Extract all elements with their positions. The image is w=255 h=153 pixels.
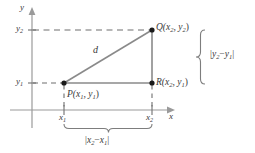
tick-label-y1-sub: 1	[20, 81, 23, 87]
y-axis-arrowhead	[29, 7, 36, 15]
point-R-label-main: R(x	[156, 77, 169, 87]
horizontal-brace-close: |	[107, 135, 109, 145]
horizontal-brace-label: |x2−x1|	[85, 136, 109, 146]
y-axis-label: y	[20, 3, 24, 12]
point-P-label: P(x1, y1)	[67, 90, 99, 100]
vertical-brace-close: |	[232, 49, 234, 59]
point-P-label-main: P(x	[67, 89, 80, 99]
vertical-brace	[196, 30, 205, 84]
vertical-brace-label: |y2−y1|	[210, 50, 234, 60]
distance-formula-figure: y x y2 y1 x1 x2 Q(x2, y2) R(x2, y1) P(x1…	[0, 0, 255, 153]
tick-label-x1: x1	[59, 113, 66, 123]
tick-label-x2-sub: 2	[150, 117, 153, 123]
point-R-label: R(x2, y1)	[156, 78, 188, 88]
horizontal-brace	[64, 124, 152, 133]
tick-label-y2: y2	[16, 24, 23, 34]
point-R-dot	[149, 80, 154, 85]
point-P-label-end: )	[96, 89, 99, 99]
point-Q-label-end: )	[186, 22, 189, 32]
tick-label-x2: x2	[146, 113, 153, 123]
x-axis-label: x	[169, 112, 173, 121]
point-Q-label-main: Q(x	[156, 22, 170, 32]
tick-label-y1: y1	[16, 77, 23, 87]
point-R-label-end: )	[185, 77, 188, 87]
point-Q-label: Q(x2, y2)	[156, 23, 189, 33]
distance-label: d	[93, 45, 98, 55]
point-Q-dot	[149, 27, 154, 32]
triangle-hypotenuse	[64, 30, 152, 83]
tick-label-x1-sub: 1	[63, 117, 66, 123]
point-P-dot	[61, 80, 66, 85]
figure-canvas	[0, 0, 255, 153]
tick-label-y2-sub: 2	[20, 28, 23, 34]
